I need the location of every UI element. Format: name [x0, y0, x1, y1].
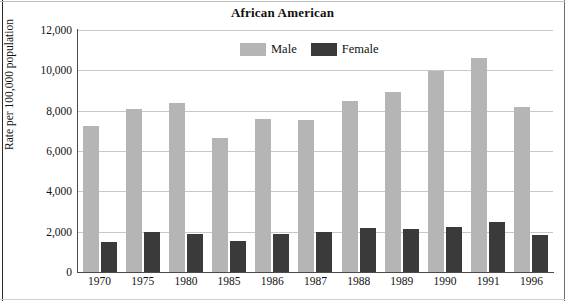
bar-group [121, 30, 164, 272]
bar-group [380, 30, 423, 272]
bar-male-1987[interactable] [298, 120, 314, 272]
bar-series-container [78, 30, 553, 272]
x-axis-tick-label: 1970 [78, 275, 121, 287]
bar-male-1975[interactable] [126, 109, 142, 272]
bar-group [337, 30, 380, 272]
bar-female-1985[interactable] [230, 241, 246, 272]
x-axis-tick-label: 1975 [121, 275, 164, 287]
y-axis-tick-label: 4,000 [46, 185, 72, 197]
plot-area: 02,0004,0006,0008,00010,00012,000 [78, 30, 553, 272]
x-axis-tick-label: 1989 [380, 275, 423, 287]
bar-female-1970[interactable] [101, 242, 117, 272]
bar-female-1987[interactable] [316, 232, 332, 272]
x-axis-tick-labels: 1970197519801985198619871988198919901991… [78, 275, 553, 295]
legend-swatch-male [240, 43, 266, 56]
x-axis-tick-label: 1987 [294, 275, 337, 287]
bar-male-1990[interactable] [428, 71, 444, 272]
bar-female-1980[interactable] [187, 234, 203, 272]
bar-group [294, 30, 337, 272]
bar-group [467, 30, 510, 272]
bar-female-1975[interactable] [144, 232, 160, 272]
page-border-bottom [0, 299, 565, 300]
bar-group [78, 30, 121, 272]
bar-male-1985[interactable] [212, 138, 228, 272]
bar-female-1996[interactable] [532, 235, 548, 272]
chart-figure: African American Rate per 100,000 popula… [0, 0, 565, 301]
chart-title: African American [0, 5, 565, 21]
bar-female-1988[interactable] [360, 228, 376, 272]
bar-male-1989[interactable] [385, 92, 401, 272]
bar-female-1986[interactable] [273, 234, 289, 272]
x-axis-tick-label: 1986 [251, 275, 294, 287]
x-axis-tick-label: 1990 [423, 275, 466, 287]
bar-male-1986[interactable] [255, 119, 271, 272]
x-axis-tick-label: 1980 [164, 275, 207, 287]
bar-female-1991[interactable] [489, 222, 505, 272]
x-axis-tick-label: 1996 [510, 275, 553, 287]
y-axis-tick-label: 8,000 [46, 105, 72, 117]
legend-item-female[interactable]: Female [311, 42, 379, 57]
x-axis-tick-label: 1991 [467, 275, 510, 287]
y-axis-tick-label: 0 [66, 266, 72, 278]
x-axis-tick-label: 1988 [337, 275, 380, 287]
legend-label: Male [271, 42, 297, 57]
bar-male-1970[interactable] [83, 126, 99, 272]
bar-male-1980[interactable] [169, 103, 185, 272]
y-axis-title: Rate per 100,000 population [3, 19, 15, 150]
bar-group [510, 30, 553, 272]
y-axis-tick-label: 2,000 [46, 226, 72, 238]
bar-male-1988[interactable] [342, 101, 358, 272]
x-axis-tick-label: 1985 [208, 275, 251, 287]
bar-group [164, 30, 207, 272]
legend-swatch-female [311, 43, 337, 56]
y-axis-tick-label: 10,000 [40, 64, 72, 76]
bar-female-1990[interactable] [446, 227, 462, 272]
legend-item-male[interactable]: Male [240, 42, 297, 57]
bar-female-1989[interactable] [403, 229, 419, 272]
y-axis-tick-label: 12,000 [40, 24, 72, 36]
x-axis-line [77, 272, 554, 273]
y-axis-tick-label: 6,000 [46, 145, 72, 157]
bar-group [208, 30, 251, 272]
bar-group [423, 30, 466, 272]
bar-male-1996[interactable] [514, 107, 530, 272]
page-border-top [0, 1, 565, 2]
bar-group [251, 30, 294, 272]
bar-male-1991[interactable] [471, 58, 487, 272]
chart-legend: MaleFemale [240, 42, 378, 57]
legend-label: Female [342, 42, 379, 57]
